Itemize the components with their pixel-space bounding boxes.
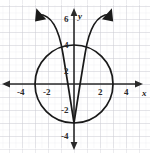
y-tick-label-neg4: -4 (61, 132, 69, 141)
x-tick-label-4: 4 (124, 88, 129, 97)
x-axis-label: x (142, 88, 147, 98)
figure-canvas: 6 4 2 -2 -4 -4 -2 2 4 y x (0, 0, 150, 153)
x-tick-label-2: 2 (98, 88, 103, 97)
x-tick-label-neg4: -4 (17, 88, 25, 97)
y-tick-label-neg2: -2 (61, 106, 69, 115)
x-tick-label-neg2: -2 (43, 88, 51, 97)
coordinate-plane-svg (0, 0, 150, 153)
y-tick-label-6: 6 (64, 15, 69, 24)
y-axis-label: y (78, 11, 82, 21)
y-tick-label-4: 4 (64, 41, 69, 50)
y-tick-label-2: 2 (64, 67, 69, 76)
grid-layer (0, 0, 150, 153)
